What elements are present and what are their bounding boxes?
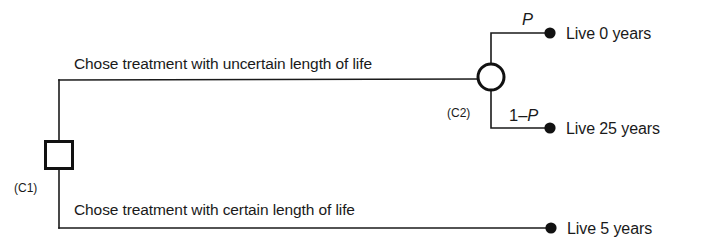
lower-branch-label: Chose treatment with certain length of l… (74, 201, 355, 218)
probability-label-upper: P (522, 10, 533, 28)
chance-upper-branch-line (491, 33, 546, 64)
upper-branch-label: Chose treatment with uncertain length of… (74, 55, 372, 72)
decision-node-tag: (C1) (14, 181, 37, 195)
probability-upper-symbol: P (522, 10, 533, 28)
terminal-dot-live-25-years (544, 122, 555, 133)
decision-tree-canvas: Chose treatment with uncertain length of… (0, 0, 709, 250)
terminal-dot-live-0-years (544, 27, 555, 38)
outcome-label-live-0-years: Live 0 years (566, 25, 651, 42)
probability-label-lower: 1–P (509, 106, 538, 124)
upper-branch-line (59, 79, 479, 80)
probability-lower-symbol: P (527, 106, 538, 124)
chance-node-circle[interactable] (478, 64, 504, 90)
outcome-label-live-5-years: Live 5 years (567, 220, 652, 237)
chance-node-tag: (C2) (447, 106, 470, 120)
outcome-label-live-25-years: Live 25 years (566, 120, 660, 137)
probability-lower-prefix: 1– (509, 106, 528, 124)
terminal-dot-live-5-years (545, 222, 556, 233)
decision-node-square[interactable] (46, 142, 73, 169)
decision-tree-figure: Chose treatment with uncertain length of… (0, 0, 709, 250)
